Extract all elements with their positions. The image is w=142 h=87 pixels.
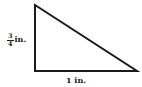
vertical-side-label: 3 4 in.: [7, 33, 26, 47]
fraction-denominator: 4: [7, 41, 14, 48]
base-side-label: 1 in.: [66, 76, 86, 84]
unit-label: in.: [15, 34, 27, 44]
fraction: 3 4: [7, 33, 14, 47]
triangle-shape: [35, 5, 137, 71]
